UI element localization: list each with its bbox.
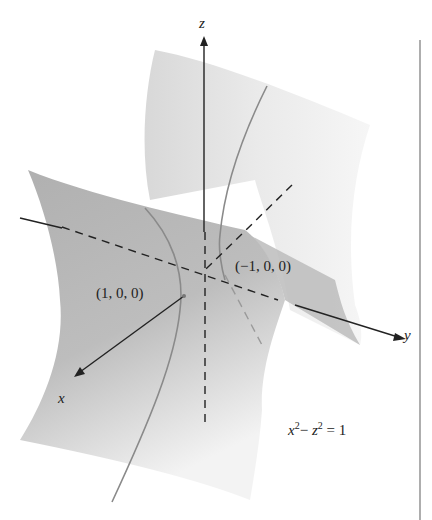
z-axis-arrowhead [200, 36, 208, 46]
point-1-0-0 [182, 294, 186, 298]
y-axis-label: y [404, 327, 411, 344]
equation-rhs: = 1 [326, 422, 346, 438]
equation-minus: − [300, 422, 308, 438]
x-axis-label: x [58, 390, 65, 407]
point-label-1-0-0: (1, 0, 0) [96, 285, 144, 302]
equation-x: x [288, 422, 295, 438]
hyperbolic-cylinder-diagram [0, 0, 432, 520]
surface-equation: x2− z2 = 1 [288, 420, 346, 439]
front-sheet-surface [20, 170, 285, 500]
point-label-neg1-0-0: (−1, 0, 0) [235, 258, 291, 275]
z-axis-label: z [199, 15, 205, 32]
equation-z-exponent: 2 [318, 420, 323, 431]
